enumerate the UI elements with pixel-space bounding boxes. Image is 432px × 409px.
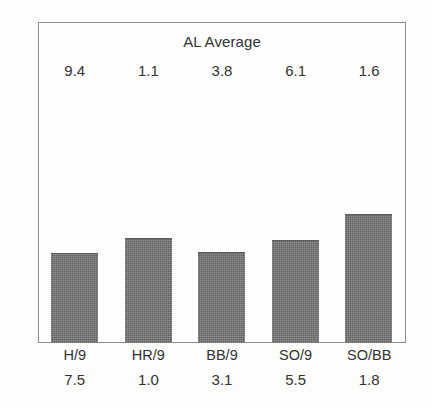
bar-slot-so9: [259, 22, 333, 343]
bar-slot-bb9: [185, 22, 259, 343]
category-label-sobb: SO/BB: [332, 347, 406, 363]
category-label-bb9: BB/9: [185, 347, 259, 363]
bar-bb9: [198, 252, 245, 343]
bar-hr9: [125, 238, 172, 343]
player-value-sobb: 1.8: [332, 371, 406, 388]
bar-so9: [272, 240, 319, 343]
player-value-h9: 7.5: [38, 371, 112, 388]
player-value-hr9: 1.0: [112, 371, 186, 388]
category-label-so9: SO/9: [259, 347, 333, 363]
player-value-so9: 5.5: [259, 371, 333, 388]
bar-slot-hr9: [112, 22, 186, 343]
category-label-h9: H/9: [38, 347, 112, 363]
category-label-row: H/9 HR/9 BB/9 SO/9 SO/BB: [38, 347, 406, 363]
bar-h9: [51, 253, 98, 343]
bars-area: [38, 22, 406, 343]
bar-slot-h9: [38, 22, 112, 343]
category-label-hr9: HR/9: [112, 347, 186, 363]
player-value-bb9: 3.1: [185, 371, 259, 388]
player-value-row: 7.5 1.0 3.1 5.5 1.8: [38, 371, 406, 388]
bar-chart-figure: AL Average 9.4 1.1 3.8 6.1 1.6 H/9 HR/9 …: [0, 0, 432, 409]
bar-sobb: [345, 214, 392, 343]
bar-slot-sobb: [332, 22, 406, 343]
